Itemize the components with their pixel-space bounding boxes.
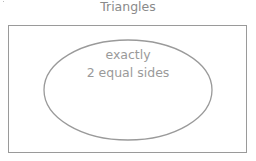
set-label: exactly 2 equal sides: [78, 46, 178, 82]
set-label-line2: 2 equal sides: [78, 64, 178, 82]
set-label-line1: exactly: [78, 46, 178, 64]
